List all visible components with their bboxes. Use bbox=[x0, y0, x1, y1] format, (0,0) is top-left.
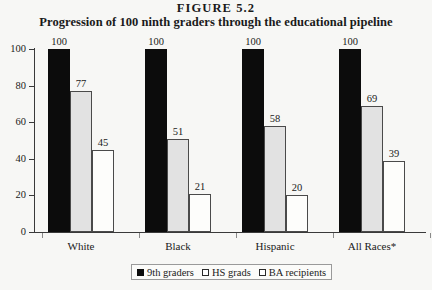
bar-value-label: 100 bbox=[40, 36, 78, 47]
bar bbox=[48, 49, 70, 232]
y-axis-tick-label: 40 bbox=[0, 154, 26, 164]
x-axis-tick bbox=[333, 233, 334, 238]
bar-value-label: 100 bbox=[234, 36, 272, 47]
chart-legend: 9th gradersHS gradsBA recipients bbox=[131, 264, 332, 280]
bar-value-label: 45 bbox=[84, 137, 122, 148]
bar bbox=[92, 150, 114, 232]
bar bbox=[361, 106, 383, 232]
bar-value-label: 77 bbox=[62, 78, 100, 89]
bar bbox=[383, 161, 405, 232]
legend-item[interactable]: BA recipients bbox=[259, 267, 326, 278]
bar-value-label: 100 bbox=[331, 36, 369, 47]
figure-container: FIGURE 5.2 Progression of 100 ninth grad… bbox=[0, 0, 432, 290]
y-axis-tick-label: 20 bbox=[0, 190, 26, 200]
bar bbox=[70, 91, 92, 232]
x-axis-category-label: White bbox=[28, 240, 134, 252]
legend-swatch-icon bbox=[259, 269, 266, 276]
bar bbox=[264, 126, 286, 232]
y-axis-tick bbox=[29, 232, 35, 233]
bar-value-label: 39 bbox=[375, 148, 413, 159]
bar-value-label: 21 bbox=[181, 181, 219, 192]
x-axis-category-label: Hispanic bbox=[222, 240, 328, 252]
x-axis-category-label: Black bbox=[125, 240, 231, 252]
y-axis-tick-label: 60 bbox=[0, 117, 26, 127]
legend-label: HS grads bbox=[212, 267, 251, 278]
bar-value-label: 69 bbox=[353, 93, 391, 104]
x-axis-tick bbox=[42, 233, 43, 238]
x-axis-tick bbox=[236, 233, 237, 238]
legend-item[interactable]: 9th graders bbox=[137, 267, 194, 278]
y-axis-tick-label: 0 bbox=[0, 227, 26, 237]
y-axis-tick-label: 100 bbox=[0, 44, 26, 54]
bar-value-label: 51 bbox=[159, 126, 197, 137]
legend-swatch-icon bbox=[202, 269, 209, 276]
x-axis-tick bbox=[139, 233, 140, 238]
bar bbox=[189, 194, 211, 232]
legend-swatch-icon bbox=[137, 269, 144, 276]
chart-title: Progression of 100 ninth graders through… bbox=[0, 15, 432, 30]
bar-value-label: 58 bbox=[256, 113, 294, 124]
bar bbox=[145, 49, 167, 232]
x-axis-category-label: All Races* bbox=[319, 240, 425, 252]
x-axis-tick bbox=[430, 233, 431, 238]
legend-label: BA recipients bbox=[269, 267, 326, 278]
x-axis-line bbox=[34, 232, 426, 233]
bar bbox=[339, 49, 361, 232]
y-axis-tick-label: 80 bbox=[0, 81, 26, 91]
legend-item[interactable]: HS grads bbox=[202, 267, 251, 278]
bar bbox=[286, 195, 308, 232]
figure-label: FIGURE 5.2 bbox=[0, 1, 432, 16]
bar-value-label: 20 bbox=[278, 182, 316, 193]
bar bbox=[242, 49, 264, 232]
bar-value-label: 100 bbox=[137, 36, 175, 47]
legend-label: 9th graders bbox=[147, 267, 194, 278]
